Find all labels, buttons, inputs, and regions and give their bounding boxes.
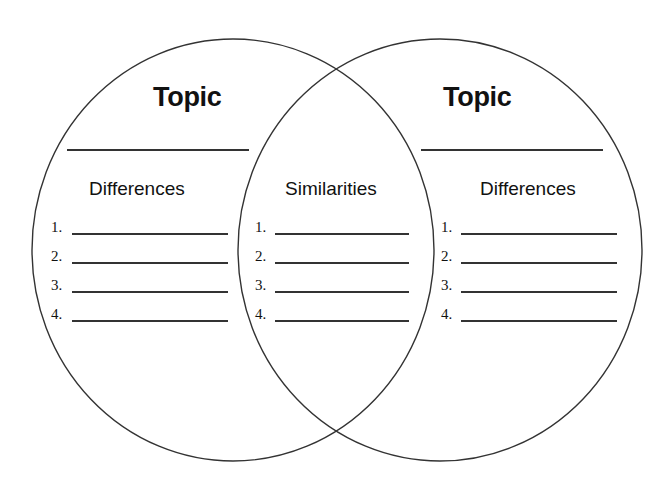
right-topic-title: Topic <box>443 82 512 113</box>
middle-item-blank[interactable] <box>275 262 409 264</box>
right-topic-blank[interactable] <box>421 149 603 151</box>
left-differences-heading: Differences <box>89 178 185 200</box>
right-item-blank[interactable] <box>461 320 617 322</box>
left-item-number: 4. <box>51 306 62 323</box>
middle-item-number: 2. <box>255 248 266 265</box>
middle-item-blank[interactable] <box>275 291 409 293</box>
right-item-blank[interactable] <box>461 291 617 293</box>
left-item-number: 2. <box>51 248 62 265</box>
left-item-blank[interactable] <box>72 291 228 293</box>
left-item-number: 3. <box>51 277 62 294</box>
right-item-number: 3. <box>441 277 452 294</box>
left-item-blank[interactable] <box>72 233 228 235</box>
right-item-blank[interactable] <box>461 233 617 235</box>
right-item-blank[interactable] <box>461 262 617 264</box>
left-topic-blank[interactable] <box>67 149 249 151</box>
middle-item-number: 4. <box>255 306 266 323</box>
left-item-number: 1. <box>51 219 62 236</box>
right-item-number: 2. <box>441 248 452 265</box>
right-differences-heading: Differences <box>480 178 576 200</box>
middle-item-number: 1. <box>255 219 266 236</box>
right-item-number: 1. <box>441 219 452 236</box>
middle-item-blank[interactable] <box>275 320 409 322</box>
middle-item-blank[interactable] <box>275 233 409 235</box>
similarities-heading: Similarities <box>285 178 377 200</box>
left-topic-title: Topic <box>153 82 222 113</box>
right-item-number: 4. <box>441 306 452 323</box>
right-circle <box>238 39 642 461</box>
left-item-blank[interactable] <box>72 320 228 322</box>
left-item-blank[interactable] <box>72 262 228 264</box>
venn-diagram <box>0 0 670 485</box>
middle-item-number: 3. <box>255 277 266 294</box>
left-circle <box>32 39 434 461</box>
